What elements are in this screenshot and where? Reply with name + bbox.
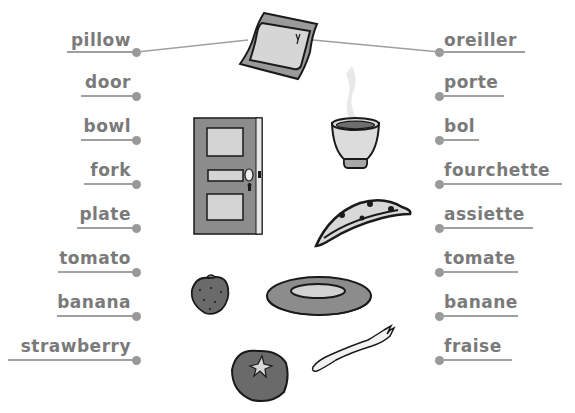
plate-picture[interactable] — [267, 277, 371, 315]
fork-picture[interactable] — [313, 326, 395, 371]
pillow-picture[interactable] — [240, 13, 317, 79]
banana-picture[interactable] — [316, 200, 410, 246]
tomato-picture[interactable] — [232, 351, 288, 401]
bowl-picture[interactable] — [332, 66, 379, 168]
strawberry-picture[interactable] — [192, 275, 229, 314]
picture-area — [0, 0, 575, 413]
door-picture[interactable] — [194, 118, 262, 234]
